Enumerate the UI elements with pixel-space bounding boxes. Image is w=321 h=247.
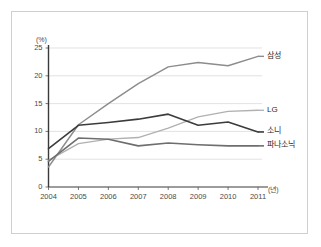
x-axis-tick-label: 2006 [94, 193, 122, 201]
y-axis-tick-label: 5 [15, 155, 43, 163]
y-axis-tick-label: 0 [15, 183, 43, 191]
series-label-3: 소니 [267, 127, 281, 135]
x-axis-tick-label: 2007 [124, 193, 152, 201]
series-label-4: 파나소닉 [267, 141, 295, 149]
y-axis-unit-label: (%) [36, 36, 47, 43]
series-label-1: 삼성 [267, 52, 281, 60]
series-label-2: LG [267, 106, 278, 114]
series-lines [49, 56, 265, 167]
axis-lines [46, 45, 269, 190]
series-line [49, 138, 259, 161]
series-line [49, 110, 259, 160]
y-axis-tick-label: 15 [15, 100, 43, 108]
y-axis-tick-label: 10 [15, 127, 43, 135]
y-axis-tick-label: 25 [15, 44, 43, 52]
x-axis-tick-label: 2009 [184, 193, 212, 201]
x-axis-tick-label: 2010 [214, 193, 242, 201]
line-chart [0, 0, 321, 247]
x-axis-unit-label: (년) [268, 186, 279, 193]
x-axis-tick-label: 2011 [244, 193, 272, 201]
y-axis-tick-label: 20 [15, 72, 43, 80]
x-axis-tick-label: 2004 [35, 193, 63, 201]
x-axis-tick-label: 2008 [154, 193, 182, 201]
x-axis-tick-label: 2005 [64, 193, 92, 201]
